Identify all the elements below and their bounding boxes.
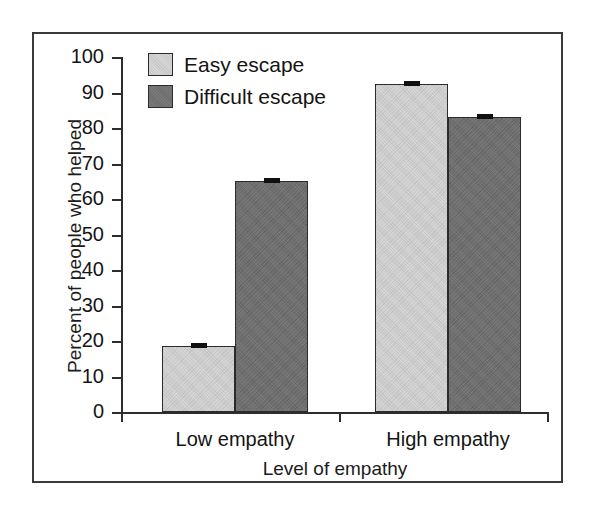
y-tick-label: 90 <box>58 82 104 102</box>
y-tick-label: 10 <box>58 366 104 386</box>
y-tick-label: 60 <box>58 188 104 208</box>
bar-low-empathy-difficult-escape <box>235 181 308 412</box>
y-tick-mark <box>112 270 121 272</box>
y-tick-mark <box>112 306 121 308</box>
legend-label-difficult: Difficult escape <box>184 86 326 107</box>
y-tick-label: 70 <box>58 153 104 173</box>
legend-swatch-icon-difficult <box>148 85 173 108</box>
y-tick-mark <box>112 93 121 95</box>
y-tick-label: 100 <box>58 46 104 66</box>
y-tick-mark <box>112 57 121 59</box>
y-tick-label: 40 <box>58 259 104 279</box>
legend: Easy escape Difficult escape <box>148 50 326 114</box>
bar-low-empathy-easy-escape <box>162 346 235 412</box>
x-axis-tick-middle <box>339 412 341 422</box>
legend-item-easy-escape: Easy escape <box>148 50 326 79</box>
bar-high-empathy-difficult-escape <box>448 117 521 412</box>
legend-item-difficult-escape: Difficult escape <box>148 82 326 111</box>
bar-high-empathy-easy-escape <box>375 84 448 412</box>
error-bar <box>404 81 420 86</box>
error-bar <box>191 343 207 348</box>
y-tick-mark <box>112 235 121 237</box>
legend-swatch-icon-easy <box>148 53 173 76</box>
y-tick-mark <box>112 377 121 379</box>
y-axis-line <box>121 57 123 413</box>
x-axis-title: Level of empathy <box>121 458 549 480</box>
x-axis-tick-left <box>121 412 123 422</box>
error-bar <box>477 114 493 119</box>
error-bar <box>264 178 280 183</box>
y-tick-mark <box>112 164 121 166</box>
legend-label-easy: Easy escape <box>184 54 304 75</box>
y-tick-label: 80 <box>58 117 104 137</box>
y-tick-mark <box>112 199 121 201</box>
y-tick-label: 30 <box>58 295 104 315</box>
plot-area: Percent of people who helped 01020304050… <box>0 0 596 517</box>
y-tick-mark <box>112 412 121 414</box>
y-tick-mark <box>112 128 121 130</box>
y-tick-label: 0 <box>58 401 104 421</box>
y-tick-label: 20 <box>58 330 104 350</box>
x-category-label: High empathy <box>345 428 551 451</box>
x-axis-tick-right <box>547 412 549 422</box>
figure-container: Percent of people who helped 01020304050… <box>0 0 596 517</box>
y-tick-label: 50 <box>58 224 104 244</box>
y-tick-mark <box>112 341 121 343</box>
x-category-label: Low empathy <box>132 428 338 451</box>
x-axis-line <box>121 412 549 414</box>
